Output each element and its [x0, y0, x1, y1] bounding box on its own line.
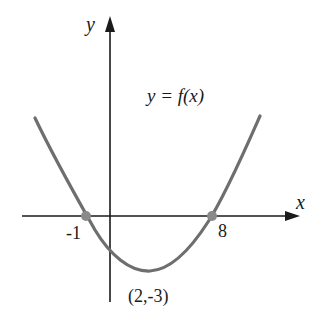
- y-axis-label: y: [86, 14, 95, 34]
- x-intercept-label-right: 8: [218, 222, 227, 240]
- x-intercept-point-left: [81, 211, 91, 221]
- y-axis-arrow-icon: [105, 16, 115, 32]
- x-axis-label: x: [296, 192, 305, 212]
- x-intercept-point-right: [207, 211, 217, 221]
- parabola-curve: [35, 116, 260, 271]
- vertex-label: (2,-3): [128, 287, 168, 305]
- function-label: y = f(x): [147, 86, 204, 105]
- x-intercept-label-left: -1: [66, 224, 81, 242]
- graph-canvas: [0, 0, 322, 326]
- function-graph: y x y = f(x) -1 8 (2,-3): [0, 0, 322, 326]
